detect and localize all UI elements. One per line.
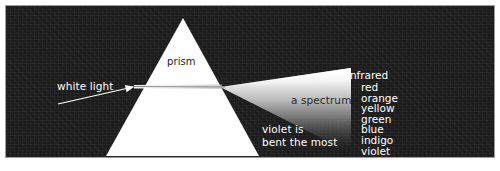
spectrum-band-violet: violet (361, 146, 487, 157)
violet-note-line-2: bent the most (262, 136, 337, 149)
prism-label: prism (167, 56, 196, 68)
white-light-label: white light (57, 81, 113, 93)
violet-bent-most-note: violet is bent the most (262, 123, 337, 149)
spectrum-band-infrared: infrared (347, 70, 487, 81)
violet-note-line-1: violet is (262, 123, 337, 136)
spectrum-band-labels: infraredredorangeyellowgreenblueindigovi… (347, 70, 487, 158)
illustration-panel: prism white light a spectrum violet is b… (5, 5, 495, 158)
diagram-stage: prism white light a spectrum violet is b… (6, 6, 494, 157)
prism-diagram-figure: prism white light a spectrum violet is b… (0, 0, 500, 171)
spectrum-label: a spectrum (291, 95, 351, 107)
refracted-ray-line (134, 87, 225, 88)
